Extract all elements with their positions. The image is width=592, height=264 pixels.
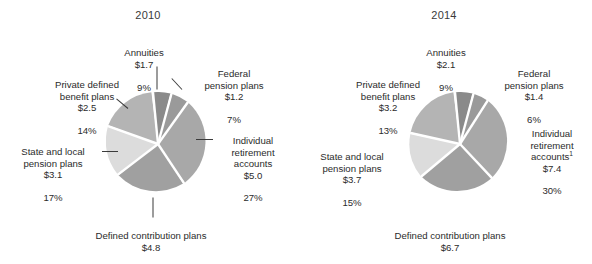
pie-label-annuities-name: Annuities (124, 47, 163, 58)
pie-label-private-value: $3.2 (336, 102, 440, 113)
pie-label-state: State and local pension plans $3.7 15% (302, 140, 402, 220)
footnote-marker: 1 (569, 150, 573, 157)
pie-label-ira-percent: 27% (214, 192, 292, 203)
pie-label-ira-percent: 30% (514, 185, 590, 196)
pie-label-federal-value: $1.4 (486, 91, 582, 102)
pie-label-state-percent: 17% (4, 192, 102, 203)
pie-label-private: Private defined benefit plans $2.5 14% (36, 68, 138, 148)
pie-label-ira-name: Individual retirement accounts1 (530, 128, 573, 162)
leader-line-dc (153, 198, 154, 218)
panel-title-2010: 2010 (0, 9, 296, 21)
pie-label-state-name: State and local pension plans (320, 151, 383, 173)
pie-label-state-value: $3.7 (302, 174, 402, 185)
pie-label-private-percent: 13% (336, 125, 440, 136)
pie-label-state-percent: 15% (302, 197, 402, 208)
panel-title-2014: 2014 (296, 9, 592, 21)
pie-label-state-name: State and local pension plans (21, 146, 84, 168)
pie-label-dc: Defined contribution plans $6.7 27% (366, 219, 534, 264)
pie-label-ira-name: Individual retirement accounts (231, 135, 274, 169)
leader-line-ira (196, 139, 213, 140)
chart-panel-2010: 2010 (0, 0, 296, 264)
pie-label-dc-name: Defined contribution plans (395, 230, 506, 241)
pie-label-private: Private defined benefit plans $3.2 13% (336, 68, 440, 148)
pie-label-ira-value: $5.0 (214, 170, 292, 181)
pie-label-private-value: $2.5 (36, 102, 138, 113)
pie-label-federal-name: Federal pension plans (504, 68, 563, 90)
pie-label-dc-name: Defined contribution plans (96, 230, 207, 241)
pie-label-annuities-name: Annuities (426, 47, 465, 58)
leader-line-state (102, 151, 118, 152)
pie-label-dc-value: $4.8 (68, 242, 234, 253)
pie-label-federal-name: Federal pension plans (204, 68, 263, 90)
retirement-assets-pie-figure: 2010 (0, 0, 592, 264)
pie-label-ira: Individual retirement accounts1 $7.4 30% (514, 117, 590, 208)
pie-label-dc-value: $6.7 (366, 242, 534, 253)
pie-label-state-value: $3.1 (4, 169, 102, 180)
pie-label-private-name: Private defined benefit plans (55, 79, 119, 101)
chart-panel-2014: 2014 (296, 0, 592, 264)
pie-label-ira: Individual retirement accounts $5.0 27% (214, 124, 292, 215)
pie-label-dc: Defined contribution plans $4.8 26% (68, 219, 234, 264)
pie-label-private-percent: 14% (36, 125, 138, 136)
pie-label-federal-value: $1.2 (186, 91, 282, 102)
pie-label-ira-value: $7.4 (514, 163, 590, 174)
pie-label-private-name: Private defined benefit plans (356, 79, 420, 101)
